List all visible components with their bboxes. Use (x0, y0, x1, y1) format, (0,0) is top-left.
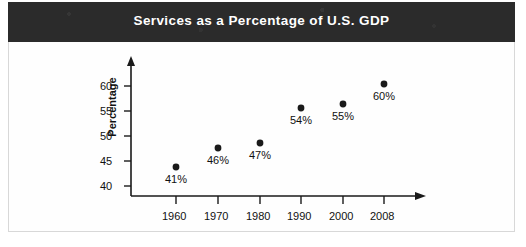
x-axis (131, 192, 426, 200)
data-point (257, 140, 264, 147)
data-point-label: 41% (165, 173, 187, 185)
x-tick-label: 1970 (204, 210, 228, 222)
x-tick-label: 2008 (370, 210, 394, 222)
y-tick-label: 60 (100, 80, 112, 92)
data-point (340, 101, 347, 108)
data-point-label: 46% (207, 154, 229, 166)
data-point-label: 60% (373, 90, 395, 102)
x-tick-label: 1980 (246, 210, 270, 222)
chart-figure: Services as a Percentage of U.S. GDP Per… (0, 0, 526, 247)
y-tick-label: 40 (100, 180, 112, 192)
y-tick-marks (124, 86, 131, 186)
y-tick-label: 55 (100, 105, 112, 117)
data-point (215, 145, 222, 152)
y-tick-label: 50 (100, 130, 112, 142)
data-points (173, 81, 388, 171)
data-point-label: 55% (332, 110, 354, 122)
data-point (381, 81, 388, 88)
data-point-label: 54% (290, 114, 312, 126)
data-point (298, 105, 305, 112)
data-point-label: 47% (249, 149, 271, 161)
y-axis (127, 56, 135, 196)
x-tick-marks (176, 196, 384, 204)
data-point (173, 164, 180, 171)
x-tick-label: 1960 (162, 210, 186, 222)
x-tick-label: 1990 (287, 210, 311, 222)
y-tick-label: 45 (100, 155, 112, 167)
x-tick-label: 2000 (329, 210, 353, 222)
